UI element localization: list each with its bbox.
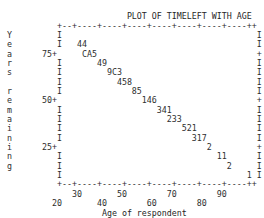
x-axis-label: Age of respondent — [2, 209, 264, 218]
ascii-scatterplot-figure: PLOT OF TIMELEFT WITH AGE +--+----+----+… — [0, 0, 264, 218]
ascii-plot-canvas: PLOT OF TIMELEFT WITH AGE +--+----+----+… — [0, 8, 264, 218]
